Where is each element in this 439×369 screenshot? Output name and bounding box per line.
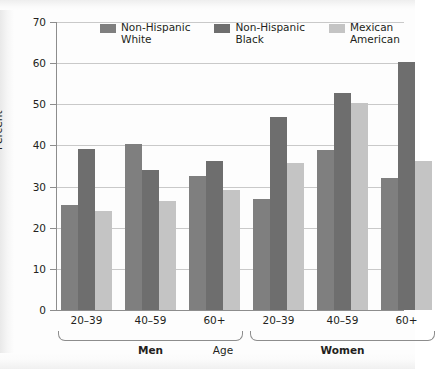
y-tick-label-30: 30: [16, 182, 46, 192]
bar: [351, 103, 368, 310]
plot-area: [57, 22, 404, 310]
y-tick-label-0: 0: [16, 305, 46, 315]
chart-legend: Non-Hispanic WhiteNon-Hispanic BlackMexi…: [100, 21, 400, 45]
x-tick-label: 40–59: [119, 314, 183, 326]
y-tick-60: [50, 63, 56, 64]
legend-swatch-icon: [100, 24, 116, 33]
x-axis-baseline: [57, 310, 404, 311]
x-tick-label: 60+: [183, 314, 247, 326]
bar: [206, 161, 223, 310]
bar: [398, 62, 415, 311]
legend-label: Mexican American: [350, 21, 400, 45]
bar: [253, 199, 270, 310]
y-tick-label-70: 70: [16, 17, 46, 27]
group-label: Women: [250, 344, 435, 356]
y-tick-10: [50, 269, 56, 270]
y-tick-70: [50, 22, 56, 23]
bar: [223, 190, 240, 310]
y-tick-label-20: 20: [16, 223, 46, 233]
legend-label: Non-Hispanic Black: [235, 21, 304, 45]
bar: [78, 149, 95, 310]
bar: [334, 93, 351, 310]
group-label: Men: [58, 344, 243, 356]
y-tick-label-50: 50: [16, 99, 46, 109]
x-tick-label: 20–39: [247, 314, 311, 326]
bar: [381, 178, 398, 310]
bar: [317, 150, 334, 310]
x-tick-label: 40–59: [311, 314, 375, 326]
gridline-60: [57, 63, 404, 64]
y-tick-label-10: 10: [16, 264, 46, 274]
legend-item: Non-Hispanic White: [100, 21, 190, 45]
y-tick-50: [50, 104, 56, 105]
page-edge-shading-top: [0, 0, 415, 10]
y-tick-30: [50, 187, 56, 188]
y-tick-label-40: 40: [16, 140, 46, 150]
bar: [159, 201, 176, 310]
bar: [287, 163, 304, 310]
y-axis-tick-labels: 010203040506070: [14, 0, 46, 369]
bar: [61, 205, 78, 310]
bar: [415, 161, 432, 310]
legend-label: Non-Hispanic White: [121, 21, 190, 45]
legend-item: Non-Hispanic Black: [214, 21, 304, 45]
bar: [189, 176, 206, 310]
legend-swatch-icon: [214, 24, 230, 33]
bar: [142, 170, 159, 310]
y-tick-20: [50, 228, 56, 229]
group-brace: [58, 331, 243, 341]
x-tick-label: 60+: [375, 314, 439, 326]
y-tick-40: [50, 145, 56, 146]
bar: [95, 211, 112, 310]
x-tick-label: 20–39: [55, 314, 119, 326]
legend-swatch-icon: [329, 24, 345, 33]
y-axis-title: Percent: [0, 110, 4, 150]
page-edge-shading-left: [0, 0, 14, 369]
group-brace: [250, 331, 435, 341]
y-tick-label-60: 60: [16, 58, 46, 68]
y-tick-0: [50, 310, 56, 311]
bar: [270, 117, 287, 310]
bar: [125, 144, 142, 310]
legend-item: Mexican American: [329, 21, 400, 45]
